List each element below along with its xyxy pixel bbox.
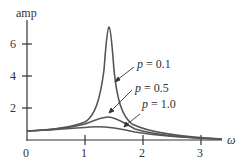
axes: [22, 20, 222, 145]
y-tick-label-6: 6: [10, 37, 16, 51]
y-tick-label-4: 4: [10, 69, 16, 83]
x-tick-label-1: 1: [81, 146, 87, 160]
x-tick-label-2: 2: [139, 146, 145, 160]
chart: 6 4 2 0 1 2 3 amp ω p = 0.1 p = 0.5 p = …: [0, 0, 241, 168]
y-axis-label: amp: [16, 6, 37, 20]
y-tick-label-2: 2: [10, 101, 16, 115]
x-tick-label-3: 3: [197, 146, 203, 160]
curves: [27, 27, 222, 139]
annotation-p-0.1: p = 0.1: [136, 57, 171, 71]
arrow-p-0.1: [117, 67, 134, 80]
x-axis-label: ω: [227, 133, 235, 147]
annotation-p-0.5: p = 0.5: [134, 81, 169, 95]
x-tick-label-0: 0: [23, 146, 29, 160]
annotation-p-1.0: p = 1.0: [141, 97, 176, 111]
